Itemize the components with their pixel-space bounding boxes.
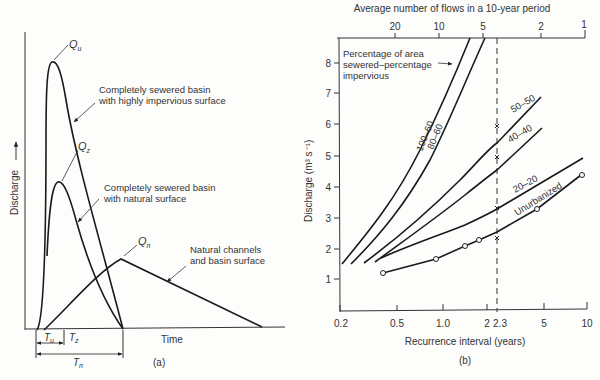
panel-a-x-axis [25, 327, 285, 329]
svg-text:1: 1 [325, 274, 331, 285]
svg-text:0.5: 0.5 [390, 318, 404, 329]
svg-text:4: 4 [325, 182, 331, 193]
svg-text:8: 8 [325, 58, 331, 69]
label-qz: Qz [78, 140, 91, 154]
legend-line-3: impervious [343, 70, 389, 81]
label-tu: Tu [44, 332, 54, 344]
panel-b-caption: (b) [459, 355, 471, 366]
annotation-channels-1: Natural channels [190, 244, 262, 255]
svg-text:5: 5 [480, 21, 486, 32]
panel-b-x-ticks: 0.2 0.5 1.0 2 2.3 5 10 [334, 302, 593, 329]
svg-text:2: 2 [325, 244, 331, 255]
svg-text:5: 5 [541, 318, 547, 329]
svg-text:6: 6 [325, 119, 331, 130]
curve-20-20 [381, 158, 583, 258]
svg-text:10: 10 [581, 318, 593, 329]
legend-line-1: Percentage of area [343, 48, 425, 59]
panel-b-x-label: Recurrence interval (years) [405, 336, 526, 347]
panel-b-y-label: Discharge (m³ s⁻¹) [303, 140, 314, 222]
svg-text:5: 5 [325, 151, 331, 162]
label-50-50: 50–50 [509, 92, 537, 115]
panel-b-x-axis [340, 309, 587, 311]
label-40-40: 40–40 [506, 122, 534, 145]
svg-text:1.0: 1.0 [436, 318, 450, 329]
label-qn: Qn [138, 235, 151, 249]
figure: Discharge Qu Qz Qn Completely sewered ba… [0, 0, 600, 380]
svg-text:2: 2 [484, 318, 490, 329]
annotation-impervious-1: Completely sewered basin [99, 84, 210, 95]
curve-50-50 [364, 97, 541, 263]
svg-text:7: 7 [325, 88, 331, 99]
svg-text:0.2: 0.2 [334, 318, 348, 329]
label-tn: Tn [73, 357, 83, 369]
svg-text:2: 2 [538, 21, 544, 32]
panel-a-caption: (a) [153, 357, 165, 368]
panel-b-top-title: Average number of flows in a 10-year per… [354, 3, 551, 14]
annotation-natural-1: Completely sewered basin [104, 182, 215, 193]
legend-line-2: sewered–percentage [343, 59, 432, 70]
label-20-20: 20–20 [511, 173, 539, 195]
svg-text:2.3: 2.3 [493, 318, 507, 329]
annotation-impervious-2: with highly impervious surface [98, 95, 226, 106]
svg-text:1: 1 [581, 19, 587, 30]
panel-b: Average number of flows in a 10-year per… [303, 3, 593, 366]
svg-text:20: 20 [389, 21, 401, 32]
panel-b-y-ticks: 8 7 6 5 4 3 2 1 [325, 58, 339, 285]
svg-text:10: 10 [433, 21, 445, 32]
curve-40-40 [375, 128, 542, 262]
panel-a-x-label: Time [161, 334, 183, 345]
curve-natural-channels [44, 259, 262, 330]
annotation-channels-2: and basin surface [190, 255, 265, 266]
panel-a-y-label: Discharge [9, 170, 20, 215]
svg-text:3: 3 [325, 213, 331, 224]
panel-a: Discharge Qu Qz Qn Completely sewered ba… [9, 32, 285, 369]
annotation-natural-2: with natural surface [103, 193, 186, 204]
label-qu: Qu [69, 38, 82, 52]
panel-b-y-axis [339, 38, 340, 312]
label-tz: Tz [69, 332, 79, 344]
